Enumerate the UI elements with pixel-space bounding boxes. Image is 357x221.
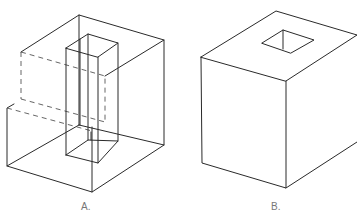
figure-a-floor-back-left xyxy=(7,125,79,166)
figure-b-label: B. xyxy=(271,201,280,212)
figure-a-pillar-top xyxy=(66,34,118,57)
figure-a-step-hidden-upper xyxy=(21,52,105,122)
figure-a-label: A. xyxy=(81,201,90,212)
figure-b xyxy=(201,11,357,188)
figure-b-top-face xyxy=(201,11,357,81)
figure-a-outer-top xyxy=(7,15,164,192)
figure-a-step-hidden-lower xyxy=(21,99,105,122)
figure-a xyxy=(7,15,164,192)
figure-b-right-bottom xyxy=(286,142,357,188)
figure-b-left-face xyxy=(201,57,286,188)
diagram-canvas xyxy=(0,0,357,221)
figure-b-hole xyxy=(262,30,314,53)
